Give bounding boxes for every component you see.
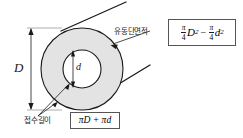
dimension-arrow-D-bottom [28, 103, 33, 110]
wetted-perimeter-formula: πD + πd [79, 116, 111, 126]
exponent-d: 2 [220, 29, 224, 36]
four-denominator-second: 4 [209, 33, 215, 41]
flow-area-label: 유동단면적 [114, 28, 148, 36]
variable-D: D [187, 27, 195, 38]
wetted-perimeter-formula-box: πD + πd [70, 112, 120, 129]
wetted-perimeter-label: 접수길이 [24, 117, 51, 125]
pi-over-four-second: π 4 [209, 24, 215, 41]
pi-numerator-first: π [181, 24, 187, 32]
figure-container: D d 유동단면적 π 4 D2 − π 4 d2 접수길이 πD + πd [0, 0, 243, 138]
pi-numerator-second: π [209, 24, 215, 32]
flow-area-formula-box: π 4 D2 − π 4 d2 [168, 19, 236, 46]
pi-over-four-first: π 4 [181, 24, 187, 41]
four-denominator-first: 4 [181, 33, 187, 41]
leader-arrow-wetted-outer [52, 102, 58, 108]
inner-diameter-label: d [76, 62, 81, 72]
flow-area-formula: π 4 D2 − π 4 d2 [180, 24, 224, 41]
dimension-arrow-D-top [28, 28, 33, 35]
outer-diameter-label: D [14, 61, 23, 74]
minus-operator: − [198, 28, 208, 38]
inner-circle [63, 50, 101, 88]
